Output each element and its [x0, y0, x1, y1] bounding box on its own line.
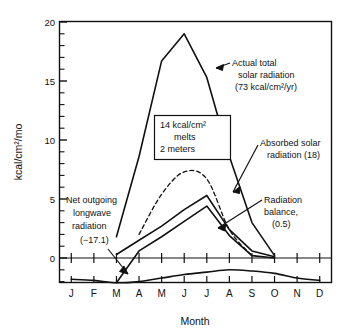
series-net-outgoing-longwave-radiation	[71, 270, 319, 283]
annotation-balance-line1: Radiation	[264, 195, 302, 205]
y-axis-title: kcal/cm²/mo	[12, 124, 24, 181]
annotation-longwave-line3: radiation	[72, 221, 107, 231]
x-tick-label-3: A	[136, 288, 143, 299]
x-tick-label-7: A	[226, 288, 233, 299]
melt-box-line2: melts	[174, 132, 196, 142]
annotation-balance-line2: balance,	[264, 207, 298, 217]
melt-box-line1: 14 kcal/cm²	[160, 120, 206, 130]
annotation-absorbed-line1: Absorbed solar	[260, 138, 321, 148]
y-tick-label: 10	[44, 135, 55, 146]
annotation-net-longwave: Net outgoing longwave radiation (−17.1)	[66, 195, 128, 274]
annotation-longwave-line1: Net outgoing	[66, 195, 117, 205]
arrowhead-actual-total	[216, 65, 224, 71]
chart-root: 05101520 JFMAMJJASOND kcal/cm²/mo Month …	[0, 0, 347, 334]
melt-box-line3: 2 meters	[160, 144, 196, 154]
x-tick-label-5: J	[182, 288, 187, 299]
annotation-actual-total-line3: (73 kcal/cm²/yr)	[235, 82, 297, 92]
y-tick-label: 20	[44, 17, 55, 28]
x-tick-label-4: M	[157, 288, 165, 299]
y-tick-label: 0	[50, 253, 55, 264]
annotation-absorbed-solar: Absorbed solar radiation (18)	[233, 138, 321, 194]
y-tick-label: 15	[44, 76, 55, 87]
x-axis-ticks-bottom	[71, 276, 319, 282]
annotation-radiation-balance: Radiation balance, (0.5)	[218, 195, 302, 231]
x-tick-label-1: F	[91, 288, 97, 299]
y-tick-label: 5	[50, 194, 55, 205]
y-axis-tick-labels: 05101520	[44, 17, 55, 264]
leader-line-absorbed	[233, 145, 258, 192]
radiation-budget-figure: 05101520 JFMAMJJASOND kcal/cm²/mo Month …	[0, 0, 347, 334]
annotation-longwave-line2: longwave	[73, 208, 111, 218]
annotation-actual-total-line2: solar radiation	[238, 70, 295, 80]
x-tick-label-11: D	[316, 288, 323, 299]
leader-line-balance	[218, 200, 262, 228]
x-tick-label-6: J	[204, 288, 209, 299]
x-tick-label-0: J	[69, 288, 74, 299]
series-absorbed-solar-radiation	[116, 195, 274, 256]
x-tick-label-9: O	[271, 288, 279, 299]
x-tick-label-10: N	[294, 288, 301, 299]
x-axis-title: Month	[180, 315, 209, 327]
annotation-longwave-line4: (−17.1)	[80, 235, 109, 245]
annotation-absorbed-line2: radiation (18)	[267, 150, 320, 160]
annotation-actual-total-solar: Actual total solar radiation (73 kcal/cm…	[216, 58, 297, 92]
x-tick-label-2: M	[112, 288, 120, 299]
annotation-balance-line3: (0.5)	[272, 219, 291, 229]
annotation-actual-total-line1: Actual total	[232, 58, 277, 68]
x-tick-label-8: S	[249, 288, 256, 299]
x-axis-tick-labels: JFMAMJJASOND	[69, 288, 324, 299]
y-axis-minor-ticks	[60, 34, 65, 282]
